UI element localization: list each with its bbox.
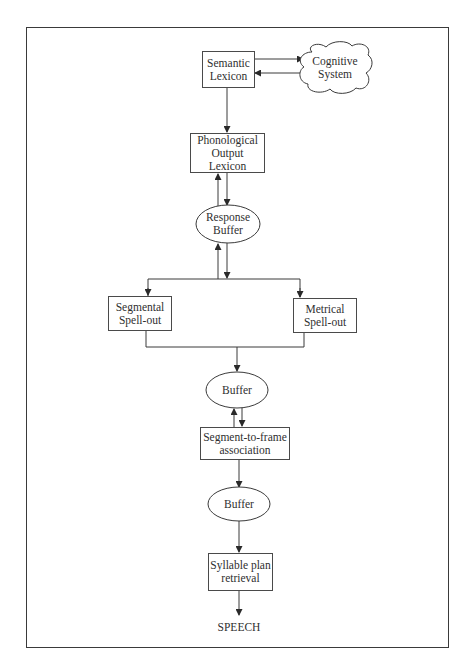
speech-label: SPEECH <box>218 621 261 633</box>
merge-connector <box>146 330 304 347</box>
semantic-lexicon-label: Semantic Lexicon <box>207 57 250 83</box>
buffer-1-node: Buffer <box>206 373 268 407</box>
segment-to-frame-node: Segment-to-frame association <box>200 427 290 460</box>
response-buffer-node: Response Buffer <box>196 206 260 242</box>
buffer-1-label: Buffer <box>222 384 252 397</box>
segment-to-frame-label: Segment-to-frame association <box>203 431 287 457</box>
cognitive-system-label: Cognitive System <box>312 55 357 81</box>
cognitive-system-node: Cognitive System <box>300 48 370 88</box>
segmental-spell-out-node: Segmental Spell-out <box>108 296 172 331</box>
phonological-output-lexicon-node: Phonological Output Lexicon <box>190 133 265 173</box>
buffer-2-label: Buffer <box>224 498 254 511</box>
metrical-spell-out-label: Metrical Spell-out <box>304 303 346 329</box>
syllable-plan-retrieval-label: Syllable plan retrieval <box>210 559 270 585</box>
semantic-lexicon-node: Semantic Lexicon <box>202 51 255 88</box>
phonological-output-lexicon-label: Phonological Output Lexicon <box>197 134 258 173</box>
speech-output-label: SPEECH <box>204 621 274 633</box>
response-buffer-label: Response Buffer <box>206 211 250 237</box>
metrical-spell-out-node: Metrical Spell-out <box>293 298 357 333</box>
split-connector <box>148 279 300 297</box>
segmental-spell-out-label: Segmental Spell-out <box>116 301 165 327</box>
syllable-plan-retrieval-node: Syllable plan retrieval <box>208 553 273 591</box>
buffer-2-node: Buffer <box>208 488 270 521</box>
